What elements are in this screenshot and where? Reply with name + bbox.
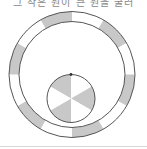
ring-segment (17, 20, 45, 48)
ring-segment (72, 12, 104, 29)
ring-segment (99, 101, 127, 129)
ring-segment (99, 20, 127, 48)
ring-segment (72, 120, 104, 137)
ring-segment (41, 12, 73, 29)
marker-dot (70, 73, 73, 76)
bottom-divider (0, 146, 147, 147)
ring-segment (9, 43, 26, 75)
ring-segment (17, 101, 45, 129)
ring-segment (118, 43, 135, 75)
inner-circle (47, 73, 95, 122)
ring-segment (41, 120, 73, 137)
rolling-circle-diagram (0, 0, 147, 149)
ring-segment (9, 75, 26, 107)
ring-segment (118, 75, 135, 107)
